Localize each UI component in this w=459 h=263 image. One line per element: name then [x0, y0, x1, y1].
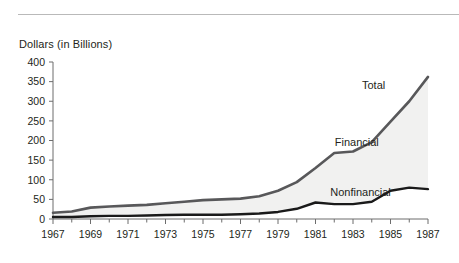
- y-tick-label: 400: [27, 56, 45, 68]
- total-label: Total: [362, 79, 385, 91]
- y-tick-label: 100: [27, 174, 45, 186]
- y-axis-ticks: [49, 62, 53, 219]
- chart-plot-area: 400350300250200150100500 196719691971197…: [0, 0, 459, 263]
- chart-figure: Dollars (in Billions) 400350300250200150…: [0, 0, 459, 263]
- x-tick-label: 1987: [416, 228, 440, 240]
- x-tick-label: 1983: [341, 228, 365, 240]
- y-tick-label: 250: [27, 115, 45, 127]
- y-tick-label: 0: [39, 213, 45, 225]
- x-axis-ticks: [53, 219, 428, 224]
- y-tick-label: 200: [27, 134, 45, 146]
- x-tick-label: 1977: [229, 228, 253, 240]
- x-tick-label: 1981: [304, 228, 328, 240]
- x-tick-label: 1975: [191, 228, 215, 240]
- y-tick-label: 150: [27, 154, 45, 166]
- x-tick-label: 1985: [379, 228, 403, 240]
- x-tick-label: 1973: [154, 228, 178, 240]
- x-tick-label: 1969: [79, 228, 103, 240]
- x-axis-tick-labels: 1967196919711973197519771979198119831985…: [41, 228, 440, 240]
- y-tick-label: 300: [27, 95, 45, 107]
- x-tick-label: 1967: [41, 228, 65, 240]
- financial-label: Financial: [335, 136, 379, 148]
- y-tick-label: 350: [27, 75, 45, 87]
- x-tick-label: 1979: [266, 228, 290, 240]
- nonfinancial-label: Nonfinancial: [330, 186, 391, 198]
- y-tick-label: 50: [33, 193, 45, 205]
- x-tick-label: 1971: [116, 228, 140, 240]
- y-axis-tick-labels: 400350300250200150100500: [27, 56, 45, 225]
